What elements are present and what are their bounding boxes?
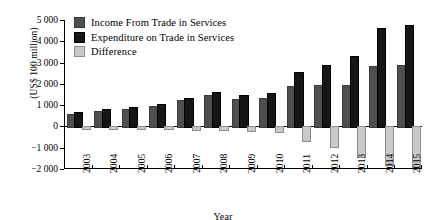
bar (82, 126, 91, 130)
x-tick-label: 2004 (109, 154, 119, 173)
x-tick (64, 165, 65, 169)
y-tick-label: 3 000 (37, 58, 58, 68)
x-tick (202, 165, 203, 169)
bar (109, 126, 118, 130)
legend-item-expenditure: Expenditure on Trade in Services (74, 32, 234, 43)
legend-label: Expenditure on Trade in Services (91, 32, 234, 43)
legend-label: Difference (91, 46, 137, 57)
legend-label: Income From Trade in Services (91, 17, 226, 28)
x-tick (119, 165, 120, 169)
bar (192, 126, 201, 130)
legend-item-difference: Difference (74, 46, 234, 57)
bar (239, 95, 248, 129)
bar (184, 98, 193, 129)
x-tick-label: 2011 (302, 154, 312, 173)
bar (212, 92, 221, 128)
x-tick-label: 2003 (82, 154, 92, 173)
x-tick-label: 2010 (275, 154, 285, 173)
y-tick (60, 126, 64, 127)
x-axis-title: Year (0, 211, 446, 220)
y-tick-label: 0 (53, 121, 58, 131)
x-tick-label: 2012 (330, 154, 340, 173)
bar (302, 126, 311, 141)
x-tick (229, 165, 230, 169)
chart-legend: Income From Trade in ServicesExpenditure… (74, 17, 234, 57)
x-tick-label: 2007 (192, 154, 202, 173)
y-tick (60, 84, 64, 85)
bar (294, 72, 303, 128)
x-tick-label: 2015 (412, 154, 422, 173)
bar (377, 28, 386, 128)
bar (219, 126, 228, 131)
x-tick-label: 2013 (357, 154, 367, 173)
y-tick-label: −1 000 (31, 143, 58, 153)
bar (405, 25, 414, 129)
bar (129, 107, 138, 128)
services-trade-bar-chart: (US$ 100 million) 5 0004 0003 0002 0001 … (0, 0, 446, 220)
bar (247, 126, 256, 132)
bar (157, 104, 166, 128)
legend-swatch-difference (74, 46, 85, 57)
bar (267, 93, 276, 128)
y-tick (60, 105, 64, 106)
bar (322, 65, 331, 128)
x-tick-label: 2014 (385, 154, 395, 173)
y-axis-line (64, 20, 65, 169)
legend-swatch-expenditure (74, 32, 85, 43)
x-tick-label: 2005 (137, 154, 147, 173)
y-tick-label: −2 000 (31, 164, 58, 174)
y-tick-label: 1 000 (37, 100, 58, 110)
y-tick-label: 2 000 (37, 79, 58, 89)
legend-swatch-income (74, 17, 85, 28)
y-tick (60, 20, 64, 21)
y-tick-label: 4 000 (37, 36, 58, 46)
x-tick (174, 165, 175, 169)
bar (275, 126, 284, 133)
y-tick-label: 5 000 (37, 15, 58, 25)
y-tick (60, 169, 64, 170)
x-tick-label: 2008 (219, 154, 229, 173)
bar (330, 126, 339, 148)
y-tick (60, 41, 64, 42)
x-tick (92, 165, 93, 169)
x-tick (147, 165, 148, 169)
bar (137, 126, 146, 130)
legend-item-income: Income From Trade in Services (74, 17, 234, 28)
x-tick (257, 165, 258, 169)
x-tick (312, 165, 313, 169)
x-tick-label: 2006 (164, 154, 174, 173)
bar (164, 126, 173, 130)
x-tick (367, 165, 368, 169)
x-tick-label: 2009 (247, 154, 257, 173)
bar (350, 56, 359, 128)
y-tick (60, 148, 64, 149)
y-tick (60, 63, 64, 64)
